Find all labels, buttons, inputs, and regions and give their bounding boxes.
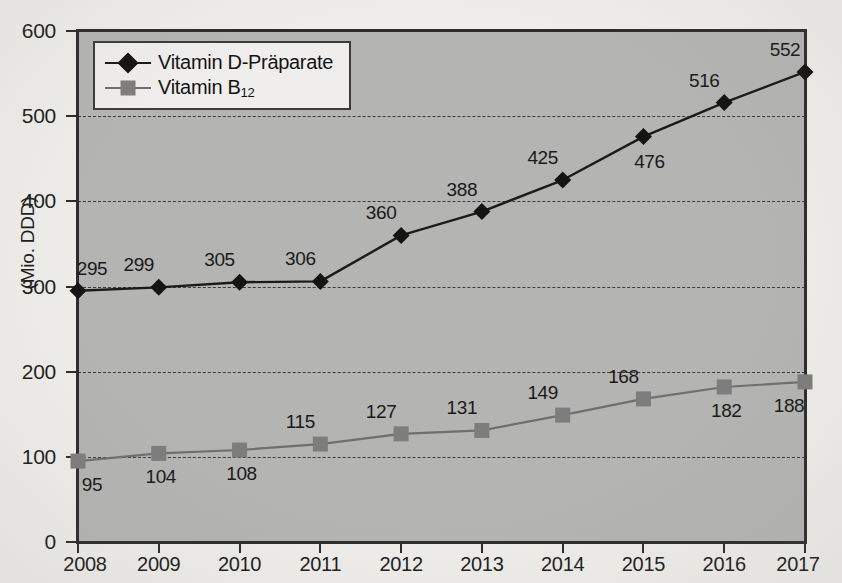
- gridline-500: [78, 116, 805, 117]
- data-label: 476: [634, 151, 665, 173]
- legend-label-vitamin-d: Vitamin D-Präparate: [158, 51, 333, 74]
- legend-item-vitamin-d: Vitamin D-Präparate: [105, 50, 333, 75]
- y-tick-label-500: 500: [22, 104, 56, 128]
- data-label: 552: [770, 39, 801, 61]
- diamond-marker-icon: [105, 52, 151, 74]
- gridline-100: [78, 457, 805, 458]
- data-label: 360: [366, 202, 397, 224]
- y-tick-label-200: 200: [22, 360, 56, 384]
- legend-item-vitamin-b12: Vitamin B12: [105, 75, 333, 100]
- x-tick-mark-2009: [158, 544, 160, 553]
- data-label: 108: [226, 463, 257, 485]
- y-tick-mark-200: [66, 371, 78, 373]
- x-tick-mark-2015: [642, 544, 644, 553]
- data-label: 182: [711, 400, 742, 422]
- legend: Vitamin D-Präparate Vitamin B12: [93, 41, 351, 110]
- gridline-200: [78, 372, 805, 373]
- data-label: 188: [774, 395, 805, 417]
- square-marker-icon: [105, 77, 151, 99]
- x-tick-mark-2012: [400, 544, 402, 553]
- y-tick-label-100: 100: [22, 445, 56, 469]
- x-axis-spine: [76, 541, 807, 544]
- data-label: 306: [285, 248, 316, 270]
- data-label: 115: [286, 411, 315, 433]
- data-label: 104: [146, 466, 177, 488]
- x-tick-mark-2017: [804, 544, 806, 553]
- x-tick-label-2015: 2015: [622, 553, 665, 576]
- data-label: 425: [527, 147, 558, 169]
- data-label: 305: [204, 249, 235, 271]
- y-tick-label-0: 0: [45, 530, 56, 554]
- x-tick-mark-2008: [77, 544, 79, 553]
- x-tick-mark-2016: [723, 544, 725, 553]
- y-tick-mark-300: [66, 286, 78, 288]
- gridline-300: [78, 287, 805, 288]
- x-tick-mark-2013: [481, 544, 483, 553]
- legend-label-vitamin-b12: Vitamin B12: [158, 76, 254, 99]
- y-tick-mark-0: [66, 541, 78, 543]
- x-tick-label-2011: 2011: [299, 553, 341, 576]
- x-tick-label-2010: 2010: [218, 553, 261, 576]
- data-label: 95: [82, 474, 102, 496]
- data-label: 295: [77, 258, 108, 280]
- y-tick-label-600: 600: [22, 19, 56, 43]
- x-tick-label-2012: 2012: [379, 553, 422, 576]
- x-tick-label-2016: 2016: [703, 553, 746, 576]
- x-tick-label-2014: 2014: [541, 553, 584, 576]
- y-tick-mark-100: [66, 456, 78, 458]
- y-axis-title: (Mio. DDD): [17, 173, 39, 313]
- x-tick-mark-2014: [562, 544, 564, 553]
- data-label: 149: [527, 382, 558, 404]
- data-label: 131: [447, 397, 478, 419]
- data-label: 168: [608, 366, 639, 388]
- y-tick-mark-600: [66, 30, 78, 32]
- x-tick-label-2013: 2013: [460, 553, 503, 576]
- data-label: 299: [124, 254, 155, 276]
- y-tick-mark-500: [66, 115, 78, 117]
- x-tick-label-2008: 2008: [63, 553, 106, 576]
- x-tick-mark-2010: [239, 544, 241, 553]
- legend-label-vitamin-b12-base: Vitamin B: [158, 76, 241, 98]
- y-tick-mark-400: [66, 200, 78, 202]
- chart-root: 0100200300400500600 20082009201020112012…: [0, 0, 842, 583]
- gridline-400: [78, 201, 805, 202]
- axis-right-spine: [804, 29, 807, 544]
- data-label: 388: [447, 179, 478, 201]
- x-tick-label-2009: 2009: [137, 553, 180, 576]
- legend-label-vitamin-b12-sub: 12: [241, 85, 255, 100]
- axis-top-spine: [76, 29, 807, 32]
- data-label: 516: [689, 70, 720, 92]
- x-tick-label-2017: 2017: [776, 553, 819, 576]
- x-tick-mark-2011: [319, 544, 321, 553]
- data-label: 127: [366, 401, 397, 423]
